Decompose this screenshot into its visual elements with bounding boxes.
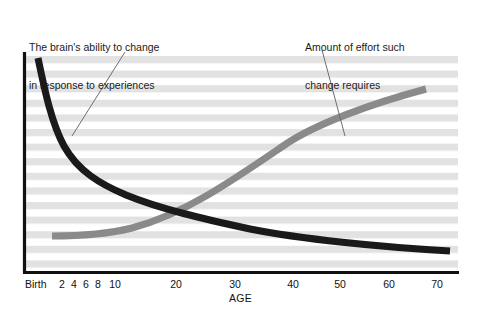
- x-axis-title: AGE: [0, 292, 481, 304]
- annotation-effort-required-line1: Amount of effort such: [305, 41, 405, 54]
- annotation-effort-required-line2: change requires: [305, 79, 405, 92]
- x-tick-6: 6: [83, 278, 89, 290]
- annotation-brain-ability: The brain's ability to change in respons…: [29, 16, 159, 116]
- x-tick-2: 2: [59, 278, 65, 290]
- x-tick-10: 10: [109, 278, 121, 290]
- x-tick-40: 40: [287, 278, 299, 290]
- annotation-brain-ability-line2: in response to experiences: [29, 79, 159, 92]
- x-tick-birth: Birth: [25, 278, 47, 290]
- x-tick-20: 20: [170, 278, 182, 290]
- annotation-brain-ability-line1: The brain's ability to change: [29, 41, 159, 54]
- x-tick-50: 50: [334, 278, 346, 290]
- x-tick-8: 8: [95, 278, 101, 290]
- x-tick-4: 4: [71, 278, 77, 290]
- x-tick-60: 60: [383, 278, 395, 290]
- chart-figure: The brain's ability to change in respons…: [0, 0, 481, 323]
- x-tick-70: 70: [431, 278, 443, 290]
- x-tick-30: 30: [229, 278, 241, 290]
- annotation-effort-required: Amount of effort such change requires: [305, 16, 405, 116]
